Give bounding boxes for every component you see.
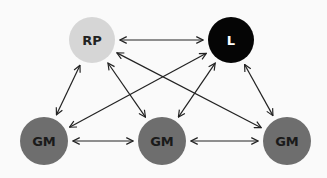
node-rp: RP	[69, 17, 115, 63]
diagram-canvas: RPLGMGMGM	[0, 0, 327, 178]
edge-l-gm2	[178, 63, 215, 117]
node-label: L	[227, 33, 235, 48]
node-label: GM	[275, 134, 299, 149]
node-label: GM	[150, 134, 174, 149]
node-l: L	[208, 17, 254, 63]
edge-rp-gm2	[108, 63, 146, 117]
network-diagram: RPLGMGMGM	[0, 0, 327, 178]
node-label: GM	[32, 134, 56, 149]
node-gm1: GM	[20, 117, 68, 165]
node-label: RP	[82, 33, 102, 48]
edge-l-gm3	[245, 64, 273, 115]
edge-rp-gm1	[56, 65, 80, 115]
node-gm2: GM	[138, 117, 186, 165]
node-gm3: GM	[263, 117, 311, 165]
